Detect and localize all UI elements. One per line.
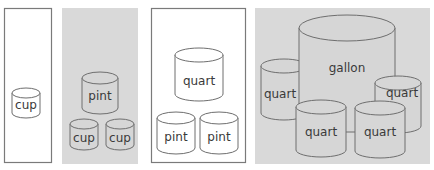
cylinder-label: quart xyxy=(305,125,338,139)
cylinder-quart: quart xyxy=(175,48,223,101)
cylinder-pint: pint xyxy=(82,72,118,114)
cylinder-cup: cup xyxy=(12,88,40,118)
cylinder-cup: cup xyxy=(70,119,98,150)
cylinder-label: pint xyxy=(207,130,231,144)
panel-cup xyxy=(5,9,52,163)
cylinder-quart: quart xyxy=(355,101,405,158)
cylinder-label: pint xyxy=(164,130,188,144)
cylinder-quart: quart xyxy=(296,100,346,157)
cylinder-pint: pint xyxy=(157,112,195,154)
cylinder-label: gallon xyxy=(329,61,366,75)
cylinder-label: quart xyxy=(183,74,216,88)
cylinder-pint: pint xyxy=(200,112,238,154)
cylinder-cup: cup xyxy=(106,119,134,150)
cylinder-label: pint xyxy=(88,89,112,103)
cylinder-label: cup xyxy=(15,98,37,112)
cylinder-label: quart xyxy=(386,86,419,100)
cylinder-label: cup xyxy=(73,131,95,145)
cylinder-label: quart xyxy=(364,125,397,139)
measurement-diagram: cup pint cup cup quart pint pint quart xyxy=(0,0,434,170)
cylinder-label: quart xyxy=(264,87,297,101)
cylinder-label: cup xyxy=(109,131,131,145)
